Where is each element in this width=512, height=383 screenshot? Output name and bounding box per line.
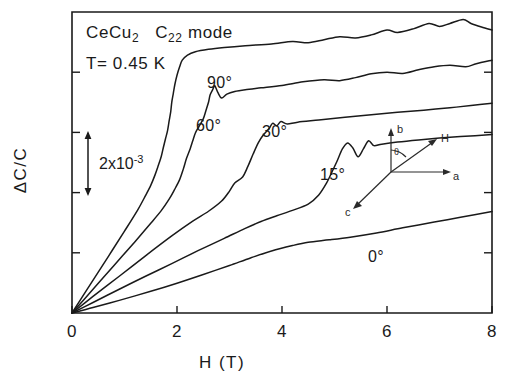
curve-label-15deg: 15° (320, 166, 345, 183)
curve-60deg (72, 60, 492, 313)
curve-label-0deg: 0° (368, 248, 384, 265)
x-axis-title: H (T) (199, 353, 245, 372)
figure-container: 02468 90°60°30°15°0° 2x10-3 CeCu2 C22 mo… (0, 0, 512, 383)
scale-bar: 2x10-3 (85, 131, 144, 196)
x-tick-label: 8 (487, 322, 497, 341)
chart-canvas: 02468 90°60°30°15°0° 2x10-3 CeCu2 C22 mo… (0, 0, 512, 383)
curve-0deg (72, 212, 492, 313)
inset-axis-b-label: b (397, 123, 403, 135)
curve-label-60deg: 60° (196, 117, 221, 134)
inset-angle-label: θ (394, 147, 399, 157)
curve-label-90deg: 90° (207, 74, 232, 91)
x-axis-tick-labels: 02468 (67, 322, 497, 341)
x-axis-ticks (72, 306, 492, 313)
inset-axis-b-arrowhead (388, 128, 394, 136)
inset-axis-c-label: c (345, 206, 351, 218)
x-tick-label: 0 (67, 322, 77, 341)
inset-axis-H-label: H (441, 132, 449, 144)
inset-axis-a-label: a (453, 170, 460, 182)
x-tick-label: 2 (172, 322, 182, 341)
temperature-label: T= 0.45 K (86, 54, 166, 73)
x-tick-label: 6 (382, 322, 392, 341)
y-axis-title: ΔC/C (11, 147, 30, 194)
curve-label-30deg: 30° (262, 123, 287, 140)
scale-bar-label: 2x10-3 (99, 153, 143, 172)
inset-axis-c-line (356, 172, 391, 206)
inset-axis-a-arrowhead (443, 169, 451, 175)
x-tick-label: 4 (277, 322, 287, 341)
sample-label: CeCu2 C22 mode (86, 23, 233, 45)
crystal-axis-inset: b a H c θ (345, 123, 460, 218)
